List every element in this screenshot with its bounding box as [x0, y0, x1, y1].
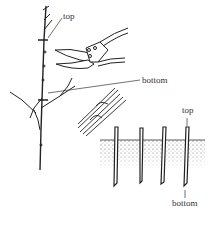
cutting-bottom-label: bottom [142, 76, 168, 85]
planted-cutting-1 [114, 127, 118, 186]
pruning-shears-icon [55, 28, 128, 69]
propagation-diagram [0, 0, 211, 226]
cutting-top-label: top [63, 12, 75, 21]
planted-top-label: top [182, 106, 194, 115]
planted-cutting-2 [140, 128, 143, 183]
planted-cutting-4 [184, 127, 189, 186]
planted-cutting-3 [161, 127, 166, 184]
planted-bottom-label: bottom [172, 199, 198, 208]
branch-illustration [10, 6, 75, 170]
bundle-of-cuttings-icon [78, 88, 126, 136]
